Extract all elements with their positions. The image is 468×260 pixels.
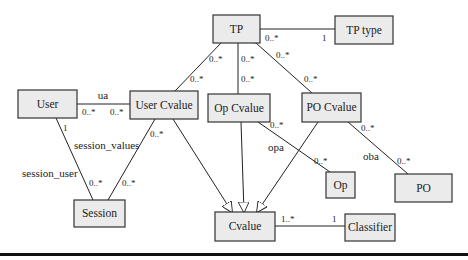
class-label: PO Cvalue [306,101,356,113]
multiplicity: 0..* [150,129,164,139]
class-label: Session [82,207,117,219]
multiplicity: 1 [322,33,327,43]
multiplicity: 0..* [314,156,328,166]
class-label: Op Cvalue [214,102,264,115]
multiplicity: 1 [332,214,337,224]
class-label: TP [230,23,243,35]
class-user-cvalue: User Cvalue [130,91,198,119]
class-label: TP type [346,24,382,37]
multiplicity: 0..* [265,33,279,43]
class-po: PO [395,174,452,202]
gen-usercvalue-cvalue [173,119,232,212]
bottom-rule [0,253,468,256]
class-po-cvalue: PO Cvalue [302,93,361,122]
assoc-oba [348,122,408,174]
multiplicity: 0..* [241,74,255,84]
class-classifier: Classifier [345,214,395,241]
class-tp-type: TP type [335,16,393,44]
class-op-cvalue: Op Cvalue [208,94,270,122]
class-label: Classifier [348,221,392,233]
multiplicity: 1 [63,123,68,133]
class-label: Cvalue [229,220,262,232]
multiplicity: 0..* [397,156,411,166]
multiplicity: 0..* [276,50,290,60]
class-session: Session [74,200,125,227]
class-op: Op [326,172,355,198]
multiplicity: 0..* [89,178,103,188]
multiplicity: 0..* [110,107,124,117]
assoc-label-session-user: session_user [22,167,78,179]
class-label: PO [416,182,431,194]
class-label: User Cvalue [135,99,192,111]
class-label: User [37,98,59,110]
multiplicity: 0..* [241,54,255,64]
assoc-label-session-values: session_values [74,139,139,151]
assoc-label-ua: ua [98,89,109,101]
assoc-label-oba: oba [363,150,379,162]
multiplicity: 0..* [270,120,284,130]
uml-diagram: TP TP type User User Cvalue Op Cvalue PO… [0,0,468,260]
multiplicity: 0..* [122,178,136,188]
multiplicity: 0..* [209,54,223,64]
class-label: Op [333,179,347,192]
multiplicity: 1..* [281,214,295,224]
multiplicity: 0..* [190,74,204,84]
class-tp: TP [213,15,260,43]
gen-opcvalue-cvalue [241,122,244,212]
class-cvalue: Cvalue [215,212,275,241]
assoc-session-user [56,118,93,200]
multiplicity: 0..* [361,123,375,133]
gen-pocvalue-cvalue [257,122,318,212]
multiplicity: 0..* [82,107,96,117]
multiplicity: 0..* [304,74,318,84]
class-user: User [18,90,77,118]
assoc-label-opa: opa [268,141,284,153]
